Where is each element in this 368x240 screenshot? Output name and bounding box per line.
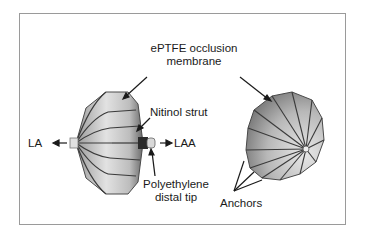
device-oblique-view: [246, 92, 324, 180]
label-distal-tip: Polyethylene distal tip: [136, 178, 216, 204]
label-la: LA: [28, 137, 42, 150]
label-laa: LAA: [174, 137, 196, 150]
label-distal-tip-line1: Polyethylene: [136, 178, 216, 191]
label-membrane-line1: ePTFE occlusion: [146, 42, 242, 55]
label-membrane: ePTFE occlusion membrane: [146, 42, 242, 68]
label-anchors: Anchors: [220, 197, 262, 210]
label-membrane-line2: membrane: [146, 55, 242, 68]
label-distal-tip-line2: distal tip: [136, 191, 216, 204]
label-nitinol-strut: Nitinol strut: [150, 106, 208, 119]
